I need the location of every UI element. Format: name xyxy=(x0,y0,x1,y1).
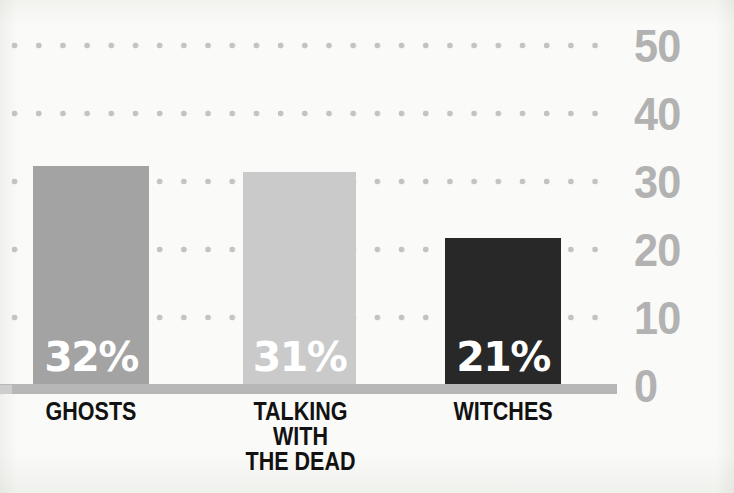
bar-witches[interactable]: 21% xyxy=(445,238,561,384)
bar-value-witches: 21% xyxy=(445,337,561,378)
bar-value-ghosts: 32% xyxy=(33,337,149,378)
plot-area: 50 40 30 20 10 0 32% 31% 21% GHOSTS TALK… xyxy=(0,0,734,493)
ytick-label-0: 0 xyxy=(634,362,713,409)
category-label-talking-with-the-dead: TALKING WITH THE DEAD xyxy=(230,399,372,474)
category-label-witches: WITCHES xyxy=(433,399,572,424)
gridline-50 xyxy=(10,41,614,50)
ytick-label-40: 40 xyxy=(634,90,713,137)
ytick-label-10: 10 xyxy=(634,294,713,341)
ytick-label-30: 30 xyxy=(634,158,713,205)
chart-page: 50 40 30 20 10 0 32% 31% 21% GHOSTS TALK… xyxy=(0,0,734,493)
bar-talking-with-the-dead[interactable]: 31% xyxy=(243,172,356,384)
x-axis-baseline xyxy=(0,384,617,394)
ytick-label-50: 50 xyxy=(634,22,713,69)
category-label-ghosts: GHOSTS xyxy=(21,399,160,424)
ytick-label-20: 20 xyxy=(634,226,713,273)
bar-ghosts[interactable]: 32% xyxy=(33,166,149,384)
bar-value-talking-with-the-dead: 31% xyxy=(243,337,356,378)
gridline-40 xyxy=(10,109,614,118)
